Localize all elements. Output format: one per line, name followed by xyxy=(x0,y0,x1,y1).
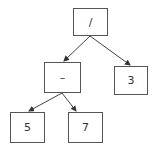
node-three-label: 3 xyxy=(128,74,135,87)
node-divide-label: / xyxy=(89,16,93,29)
edge-root-three xyxy=(90,36,130,65)
edge-root-minus xyxy=(64,36,90,61)
edge-minus-five xyxy=(29,93,62,111)
node-seven: 7 xyxy=(68,112,103,143)
node-five-label: 5 xyxy=(24,121,31,134)
node-divide: / xyxy=(73,8,108,36)
node-five: 5 xyxy=(10,112,45,143)
node-seven-label: 7 xyxy=(82,121,89,134)
node-minus-label: – xyxy=(60,71,66,84)
edge-minus-seven xyxy=(62,93,76,111)
node-three: 3 xyxy=(114,66,148,95)
node-minus: – xyxy=(44,62,81,93)
